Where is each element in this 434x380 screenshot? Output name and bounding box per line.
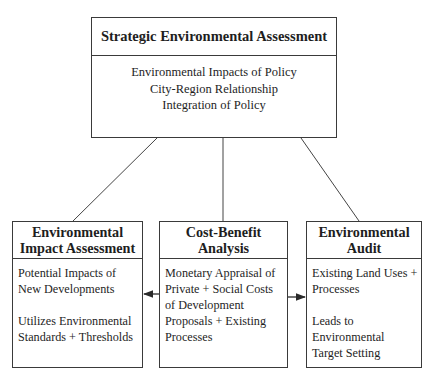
sea-item: Integration of Policy xyxy=(92,97,336,114)
cba-text: of Development xyxy=(165,297,287,313)
cba-text: Proposals + Existing xyxy=(165,313,287,329)
cba-box: Cost-Benefit Analysis Monetary Appraisal… xyxy=(159,221,288,368)
ea-title-line: Audit xyxy=(307,240,421,256)
ea-text: Target Setting xyxy=(312,345,421,361)
eia-text: Utilizes Environmental xyxy=(18,313,142,329)
sea-title: Strategic Environmental Assessment xyxy=(92,18,336,56)
ea-text: Leads to xyxy=(312,313,421,329)
sea-items: Environmental Impacts of Policy City-Reg… xyxy=(92,56,336,114)
cba-text: Monetary Appraisal of xyxy=(165,265,287,281)
ea-title: Environmental Audit xyxy=(307,222,421,259)
cba-title: Cost-Benefit Analysis xyxy=(160,222,287,259)
ea-text: Environmental xyxy=(312,329,421,345)
eia-title-line: Impact Assessment xyxy=(13,240,142,256)
sea-item: Environmental Impacts of Policy xyxy=(92,64,336,81)
sea-item: City-Region Relationship xyxy=(92,81,336,98)
eia-text: Standards + Thresholds xyxy=(18,329,142,345)
cba-body: Monetary Appraisal of Private + Social C… xyxy=(160,259,287,345)
line-sea-to-ea xyxy=(301,138,359,221)
ea-text: Existing Land Uses + xyxy=(312,265,421,281)
ea-text: Processes xyxy=(312,281,421,297)
cba-title-line: Analysis xyxy=(160,240,287,256)
sea-box: Strategic Environmental Assessment Envir… xyxy=(91,17,337,138)
cba-text: Processes xyxy=(165,329,287,345)
ea-body: Existing Land Uses + Processes Leads to … xyxy=(307,259,421,361)
line-sea-to-eia xyxy=(73,138,157,221)
eia-body: Potential Impacts of New Developments Ut… xyxy=(13,259,142,345)
eia-text: New Developments xyxy=(18,281,142,297)
cba-title-line: Cost-Benefit xyxy=(160,224,287,240)
eia-text: Potential Impacts of xyxy=(18,265,142,281)
ea-box: Environmental Audit Existing Land Uses +… xyxy=(306,221,422,368)
eia-box: Environmental Impact Assessment Potentia… xyxy=(12,221,143,368)
ea-title-line: Environmental xyxy=(307,224,421,240)
cba-text: Private + Social Costs xyxy=(165,281,287,297)
eia-title: Environmental Impact Assessment xyxy=(13,222,142,259)
eia-title-line: Environmental xyxy=(13,224,142,240)
